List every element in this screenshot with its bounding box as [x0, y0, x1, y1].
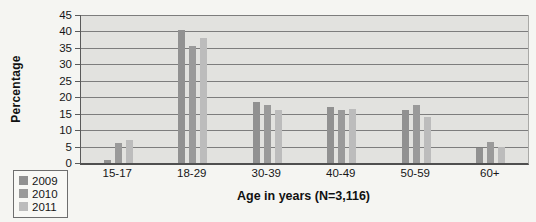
bar-2010-60+: [487, 142, 494, 163]
y-tick-mark: [75, 147, 80, 148]
legend-label-2009: 2009: [32, 175, 58, 187]
y-tick-mark: [75, 163, 80, 164]
y-axis-title: Percentage: [9, 29, 23, 149]
gridline: [81, 147, 528, 148]
y-tick-label: 15: [42, 108, 72, 120]
x-tick-label-60+: 60+: [480, 167, 500, 179]
legend-item-2010: 2010: [19, 187, 58, 200]
x-tick-label-15-17: 15-17: [103, 167, 132, 179]
gridline: [81, 64, 528, 65]
legend-item-2011: 2011: [19, 200, 58, 213]
bar-2010-30-39: [264, 105, 271, 163]
y-tick-label: 35: [42, 42, 72, 54]
bar-2010-40-49: [338, 110, 345, 163]
legend-swatch-2011: [19, 202, 28, 211]
y-tick-label: 0: [42, 157, 72, 169]
y-tick-label: 30: [42, 58, 72, 70]
legend-label-2011: 2011: [32, 201, 57, 213]
bar-2009-18-29: [178, 30, 185, 163]
bar-2011-30-39: [275, 110, 282, 163]
bar-2009-30-39: [253, 102, 260, 163]
gridline: [81, 114, 528, 115]
legend: 200920102011: [13, 170, 68, 218]
legend-swatch-2010: [19, 189, 28, 198]
bar-2010-18-29: [189, 46, 196, 163]
legend-items: 200920102011: [19, 174, 58, 213]
bar-2009-40-49: [327, 107, 334, 163]
legend-label-2010: 2010: [32, 188, 58, 200]
bar-2010-15-17: [115, 143, 122, 163]
y-tick-mark: [75, 114, 80, 115]
gridline: [81, 130, 528, 131]
y-tick-mark: [75, 130, 80, 131]
gridline: [81, 31, 528, 32]
y-tick-mark: [75, 15, 80, 16]
bar-2009-15-17: [104, 160, 111, 163]
y-tick-mark: [75, 31, 80, 32]
bar-group-30-39: [253, 102, 282, 163]
bar-2009-60+: [476, 148, 483, 163]
bar-group-50-59: [402, 105, 431, 163]
y-tick-label: 10: [42, 124, 72, 136]
bar-group-15-17: [104, 140, 133, 163]
y-tick-label: 20: [42, 91, 72, 103]
y-tick-label: 25: [42, 75, 72, 87]
gridline: [81, 15, 528, 16]
bar-2011-18-29: [200, 38, 207, 163]
y-tick-mark: [75, 48, 80, 49]
x-tick-label-50-59: 50-59: [401, 167, 430, 179]
bar-group-60+: [476, 142, 505, 163]
bar-2011-50-59: [424, 117, 431, 163]
x-tick-label-30-39: 30-39: [252, 167, 281, 179]
y-tick-mark: [75, 64, 80, 65]
bar-2009-50-59: [402, 110, 409, 163]
x-tick-label-40-49: 40-49: [326, 167, 355, 179]
legend-item-2009: 2009: [19, 174, 58, 187]
bar-2010-50-59: [413, 105, 420, 163]
y-tick-label: 40: [42, 25, 72, 37]
gridline: [81, 97, 528, 98]
y-tick-label: 5: [42, 141, 72, 153]
y-tick-mark: [75, 97, 80, 98]
x-tick-label-18-29: 18-29: [177, 167, 206, 179]
bar-group-18-29: [178, 30, 207, 163]
gridline: [81, 81, 528, 82]
bar-chart: Percentage 051015202530354045 15-1718-29…: [0, 0, 536, 222]
bar-group-40-49: [327, 107, 356, 163]
x-axis-title: Age in years (N=3,116): [80, 189, 527, 203]
y-tick-label: 45: [42, 9, 72, 21]
bar-2011-40-49: [349, 109, 356, 163]
plot-area: [80, 15, 529, 165]
bar-2011-60+: [498, 147, 505, 163]
bar-2011-15-17: [126, 140, 133, 163]
legend-swatch-2009: [19, 176, 28, 185]
gridline: [81, 48, 528, 49]
y-tick-mark: [75, 81, 80, 82]
